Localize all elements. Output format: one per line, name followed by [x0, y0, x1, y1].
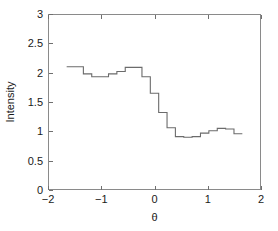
y-tick-label: 1.5 — [28, 96, 43, 108]
x-axis-title: θ — [151, 211, 157, 223]
x-tick-label: 0 — [151, 193, 157, 205]
x-tick-label: −2 — [42, 193, 55, 205]
y-tick-label: 2 — [37, 67, 43, 79]
y-tick-label: 1 — [37, 125, 43, 137]
intensity-vs-theta-chart: 00.511.522.53 −2−1012 θ Intensity — [0, 0, 278, 231]
y-axis-tick-labels: 00.511.522.53 — [28, 8, 43, 196]
x-tick-label: 1 — [205, 193, 211, 205]
y-axis-title: Intensity — [4, 81, 16, 122]
y-tick-label: 2.5 — [28, 37, 43, 49]
x-tick-label: −1 — [95, 193, 108, 205]
y-tick-label: 0.5 — [28, 155, 43, 167]
chart-figure: 00.511.522.53 −2−1012 θ Intensity — [0, 0, 278, 231]
plot-background — [48, 14, 261, 190]
x-axis-tick-labels: −2−1012 — [42, 193, 264, 205]
y-tick-label: 3 — [37, 8, 43, 20]
x-tick-label: 2 — [258, 193, 264, 205]
